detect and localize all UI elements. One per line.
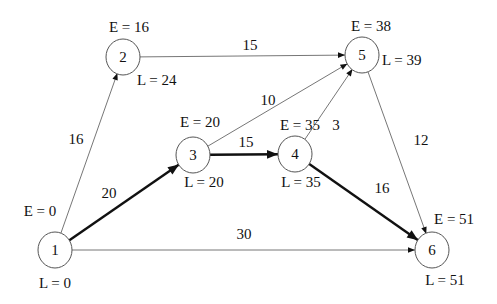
edge-weight-3-5: 10: [261, 92, 276, 108]
earliest-time-node-3: E = 20: [180, 114, 220, 130]
edge-3-to-4-critical: [210, 154, 278, 155]
edge-weight-1-2: 16: [69, 131, 85, 147]
edge-1-to-3-critical: [69, 165, 179, 241]
node-1: 1: [38, 232, 72, 268]
node-2: 2: [106, 39, 140, 75]
node-label-4: 4: [291, 146, 299, 162]
edge-weight-4-6: 16: [375, 180, 391, 196]
latest-time-node-6: L = 51: [425, 272, 465, 288]
earliest-time-node-2: E = 16: [109, 19, 150, 35]
earliest-time-node-1: E = 0: [24, 203, 57, 219]
node-label-5: 5: [358, 47, 366, 63]
node-3: 3: [176, 137, 210, 173]
critical-path-diagram: 16152010153161230 123456 E = 0L = 0E = 1…: [0, 0, 497, 304]
latest-time-node-3: L = 20: [184, 174, 224, 190]
edge-3-to-5: [208, 64, 348, 147]
node-5: 5: [345, 37, 379, 73]
earliest-time-node-4: E = 35: [280, 117, 320, 133]
edge-weight-4-5: 3: [332, 117, 340, 133]
node-6: 6: [415, 232, 449, 268]
edge-weight-1-3: 20: [102, 185, 117, 201]
edge-weight-3-4: 15: [239, 134, 254, 150]
latest-time-node-1: L = 0: [39, 275, 71, 291]
edge-1-to-2: [61, 73, 118, 234]
earliest-time-node-6: E = 51: [434, 211, 474, 227]
node-label-3: 3: [189, 147, 197, 163]
edge-weight-2-5: 15: [243, 37, 258, 53]
edge-weight-5-6: 12: [414, 132, 429, 148]
edge-5-to-6: [368, 71, 427, 234]
edge-2-to-5: [140, 55, 345, 57]
edges-layer: [61, 55, 427, 250]
node-label-2: 2: [119, 49, 127, 65]
latest-time-node-4: L = 35: [281, 174, 321, 190]
earliest-time-node-5: E = 38: [351, 18, 391, 34]
node-4: 4: [278, 136, 312, 172]
latest-time-node-2: L = 24: [137, 72, 177, 88]
node-label-1: 1: [51, 242, 59, 258]
latest-time-node-5: L = 39: [382, 52, 422, 68]
node-label-6: 6: [428, 242, 436, 258]
edge-weight-1-6: 30: [237, 226, 252, 242]
edge-4-to-6-critical: [309, 164, 418, 240]
